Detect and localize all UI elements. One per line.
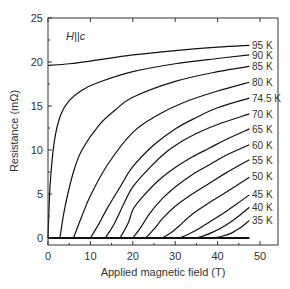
annotation-h-parallel-c: H||c <box>66 30 86 42</box>
series-labels: 95 K90 K85 K80 K74.5 K70 K65 K60 K55 K50… <box>252 40 281 226</box>
x-axis-label: Applied magnetic field (T) <box>101 266 226 278</box>
series-label: 70 K <box>252 109 273 120</box>
y-tick-label: 15 <box>31 100 43 112</box>
series-label: 74.5 K <box>252 93 281 104</box>
series-label: 85 K <box>252 61 273 72</box>
plot-area <box>48 45 249 238</box>
y-axis-label: Resistance (mΩ) <box>8 90 20 172</box>
curve-40k <box>196 207 249 238</box>
y-tick-label: 5 <box>37 188 43 200</box>
x-tick-label: 20 <box>127 250 139 262</box>
curve-90k <box>48 55 249 238</box>
x-tick-label: 0 <box>45 250 51 262</box>
curve-95k <box>48 45 249 65</box>
curve-85k <box>60 66 250 238</box>
series-label: 90 K <box>252 50 273 61</box>
series-label: 35 K <box>252 215 273 226</box>
series-label: 60 K <box>252 140 273 151</box>
series-label: 80 K <box>252 77 273 88</box>
series-label: 45 K <box>252 189 273 200</box>
y-tick-label: 0 <box>37 232 43 244</box>
curve-60k <box>133 145 250 238</box>
series-label: 65 K <box>252 124 273 135</box>
series-label: 40 K <box>252 202 273 213</box>
y-tick-label: 20 <box>31 56 43 68</box>
curve-74.5k <box>90 98 249 238</box>
y-tick-label: 25 <box>31 12 43 24</box>
x-tick-label: 40 <box>211 250 223 262</box>
curve-65k <box>120 129 249 238</box>
series-label: 50 K <box>252 171 273 182</box>
x-tick-label: 10 <box>84 250 96 262</box>
x-tick-label: 30 <box>169 250 181 262</box>
chart: 010203040500510152025 H||c Applied magne… <box>0 0 290 289</box>
series-label: 55 K <box>252 155 273 166</box>
x-tick-label: 50 <box>254 250 266 262</box>
y-tick-label: 10 <box>31 144 43 156</box>
